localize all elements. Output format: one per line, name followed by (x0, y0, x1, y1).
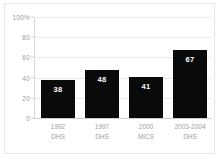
bar-slot-4: 67 2003-2004 DHS (173, 17, 207, 118)
x-axis-label-3-year: 2000 (139, 123, 153, 130)
y-tick-label-40: 40 (22, 74, 30, 81)
y-tickmark-40 (31, 77, 34, 78)
y-tick-label-80: 80 (22, 34, 30, 41)
x-axis-label-4-survey: DHS (159, 132, 221, 142)
bar-value-label-3: 41 (129, 82, 163, 91)
y-tickmark-20 (31, 97, 34, 98)
bar-value-label-2: 48 (85, 75, 119, 84)
y-tickmark-100 (31, 17, 34, 18)
chart-frame: 100% 80 60 40 20 0 38 1992 DHS 48 (4, 3, 215, 154)
plot-area: 100% 80 60 40 20 0 38 1992 DHS 48 (34, 17, 211, 118)
bar-slot-2: 48 1997 DHS (85, 17, 119, 118)
y-tick-label-20: 20 (22, 94, 30, 101)
bar-value-label-1: 38 (41, 85, 75, 94)
bar-2003-2004-dhs[interactable]: 67 (173, 50, 207, 118)
x-axis-label-4: 2003-2004 DHS (159, 122, 221, 142)
y-tickmark-0 (31, 118, 34, 119)
y-tick-label-0: 0 (26, 115, 30, 122)
bar-1997-dhs[interactable]: 48 (85, 70, 119, 119)
x-axis-label-1-year: 1992 (51, 123, 65, 130)
bar-1992-dhs[interactable]: 38 (41, 80, 75, 118)
bar-slot-3: 41 2000 MICS (129, 17, 163, 118)
y-tickmark-80 (31, 37, 34, 38)
bar-value-label-4: 67 (173, 55, 207, 64)
bar-2000-mics[interactable]: 41 (129, 77, 163, 118)
x-axis-label-4-year: 2003-2004 (174, 123, 205, 130)
y-tick-label-100: 100% (13, 14, 30, 21)
y-tick-label-60: 60 (22, 54, 30, 61)
y-tickmark-60 (31, 57, 34, 58)
bar-slot-1: 38 1992 DHS (41, 17, 75, 118)
x-axis-label-2-year: 1997 (95, 123, 109, 130)
x-axis-line (34, 118, 212, 119)
